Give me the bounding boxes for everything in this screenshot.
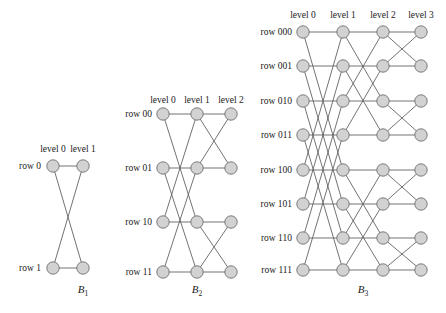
row-label: row 001 xyxy=(261,61,293,71)
row-label: row 1 xyxy=(19,263,41,273)
level-label: level 1 xyxy=(70,144,96,154)
network-node xyxy=(297,129,309,141)
caption-subscript: 2 xyxy=(198,289,202,298)
network-node xyxy=(337,164,349,176)
level-label: level 0 xyxy=(40,144,66,154)
network-node xyxy=(377,95,389,107)
network-node xyxy=(415,129,427,141)
row-label: row 111 xyxy=(261,265,292,275)
row-label: row 011 xyxy=(261,130,292,140)
network-node xyxy=(337,198,349,210)
network-node xyxy=(377,198,389,210)
figure-canvas: level 0level 1row 0row 1B1level 0level 1… xyxy=(0,0,446,313)
row-label: row 110 xyxy=(261,233,292,243)
caption-subscript: 3 xyxy=(364,289,368,298)
edge-layer xyxy=(53,166,83,268)
network-node xyxy=(225,108,237,120)
network-node xyxy=(415,232,427,244)
network-node xyxy=(377,232,389,244)
diagram-b3: level 0level 1level 2level 3row 000row 0… xyxy=(261,10,434,298)
network-node xyxy=(77,160,89,172)
network-node xyxy=(415,95,427,107)
diagram-b1: level 0level 1row 0row 1B1 xyxy=(19,144,96,298)
network-node xyxy=(191,108,203,120)
network-node xyxy=(337,264,349,276)
network-node xyxy=(47,160,59,172)
row-label: row 010 xyxy=(261,96,293,106)
level-label: level 1 xyxy=(330,10,356,20)
edge-layer xyxy=(303,32,421,270)
network-node xyxy=(415,198,427,210)
network-node xyxy=(191,216,203,228)
diagram-caption: B3 xyxy=(358,283,369,298)
level-label: level 0 xyxy=(150,95,176,105)
network-node xyxy=(297,95,309,107)
network-node xyxy=(415,164,427,176)
network-node xyxy=(77,262,89,274)
network-node xyxy=(297,26,309,38)
level-label: level 1 xyxy=(184,95,210,105)
row-label: row 01 xyxy=(125,163,152,173)
network-node xyxy=(297,60,309,72)
network-node xyxy=(415,60,427,72)
row-label: row 11 xyxy=(126,267,153,277)
diagram-caption: B2 xyxy=(192,283,203,298)
network-node xyxy=(297,264,309,276)
network-node xyxy=(157,108,169,120)
network-node xyxy=(415,264,427,276)
row-label: row 00 xyxy=(125,109,152,119)
row-label: row 101 xyxy=(261,199,293,209)
diagram-b2: level 0level 1level 2row 00row 01row 10r… xyxy=(125,95,244,298)
network-node xyxy=(337,232,349,244)
level-label: level 3 xyxy=(408,10,434,20)
row-label: row 000 xyxy=(261,27,293,37)
network-node xyxy=(377,129,389,141)
level-label: level 0 xyxy=(290,10,316,20)
caption-subscript: 1 xyxy=(84,289,88,298)
network-node xyxy=(191,162,203,174)
network-node xyxy=(337,60,349,72)
network-node xyxy=(377,60,389,72)
level-label: level 2 xyxy=(218,95,244,105)
butterfly-networks-figure: level 0level 1row 0row 1B1level 0level 1… xyxy=(0,0,446,313)
diagram-caption: B1 xyxy=(78,283,89,298)
network-node xyxy=(377,264,389,276)
network-node xyxy=(337,95,349,107)
network-node xyxy=(297,232,309,244)
network-node xyxy=(225,266,237,278)
network-node xyxy=(377,26,389,38)
network-node xyxy=(297,164,309,176)
row-label: row 0 xyxy=(19,161,41,171)
network-node xyxy=(157,266,169,278)
network-node xyxy=(297,198,309,210)
network-node xyxy=(225,216,237,228)
network-node xyxy=(157,216,169,228)
network-node xyxy=(337,26,349,38)
network-node xyxy=(47,262,59,274)
network-node xyxy=(377,164,389,176)
row-label: row 10 xyxy=(125,217,152,227)
row-label: row 100 xyxy=(261,165,293,175)
network-node xyxy=(225,162,237,174)
network-node xyxy=(415,26,427,38)
network-node xyxy=(157,162,169,174)
network-node xyxy=(191,266,203,278)
network-node xyxy=(337,129,349,141)
edge-layer xyxy=(163,114,231,272)
level-label: level 2 xyxy=(370,10,396,20)
